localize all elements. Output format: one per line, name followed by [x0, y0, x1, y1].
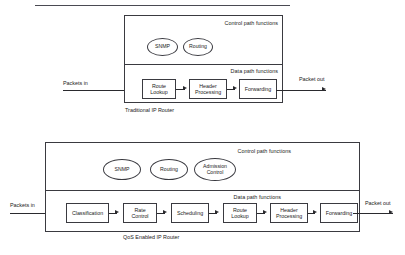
ellipse-label: Routing — [160, 167, 178, 173]
traditional-data-region-label: Data path functions — [231, 68, 278, 74]
qos-connector-5-head — [313, 210, 317, 214]
qos-data-function-classification[interactable]: Classification — [66, 203, 109, 223]
qos-data-function-scheduling[interactable]: Scheduling — [171, 203, 209, 223]
traditional-input-label: Packets in — [63, 80, 88, 86]
proc-label-line1: Scheduling — [177, 210, 203, 216]
qos-data-region-label: Data path functions — [234, 194, 281, 200]
traditional-ip-router-box: Control path functions Data path functio… — [124, 15, 283, 103]
qos-connector-1-head — [115, 210, 119, 214]
top-horizontal-rule — [35, 5, 290, 6]
qos-control-function-routing[interactable]: Routing — [150, 159, 188, 180]
traditional-router-caption: Traditional IP Router — [125, 107, 174, 113]
proc-label-line2: Processing — [195, 89, 221, 95]
traditional-connector-1-head — [183, 86, 187, 90]
traditional-path-divider — [125, 64, 282, 65]
qos-control-function-snmp[interactable]: SNMP — [103, 159, 141, 180]
traditional-control-function-routing[interactable]: Routing — [183, 38, 213, 56]
ellipse-label: SNMP — [115, 167, 130, 173]
qos-control-function-admission-control[interactable]: Admission Control — [194, 158, 236, 181]
qos-data-function-route-lookup[interactable]: Route Lookup — [223, 203, 257, 223]
qos-connector-4-head — [263, 210, 267, 214]
qos-data-function-rate-control[interactable]: Rate Control — [123, 203, 157, 223]
ellipse-label: Routing — [189, 44, 207, 50]
qos-control-region-label: Control path functions — [237, 148, 291, 154]
proc-label-line1: Classification — [72, 210, 103, 216]
figure-canvas: Packets in Control path functions Data p… — [0, 0, 405, 255]
proc-label-line2: Lookup — [150, 89, 167, 95]
traditional-data-function-route-lookup[interactable]: Route Lookup — [142, 79, 176, 99]
qos-input-label: Packets in — [10, 202, 35, 208]
qos-output-label: Packet out — [365, 200, 390, 206]
proc-label-line2: Processing — [276, 213, 302, 219]
qos-data-function-header-processing[interactable]: Header Processing — [270, 203, 308, 223]
ellipse-label-line2: Control — [207, 169, 224, 175]
qos-path-divider — [46, 190, 359, 191]
traditional-output-arrow-head — [322, 87, 326, 91]
traditional-output-label: Packet out — [299, 76, 324, 82]
traditional-output-arrow-line — [276, 90, 326, 91]
traditional-connector-2-head — [233, 86, 237, 90]
proc-label-line2: Control — [131, 213, 148, 219]
qos-output-arrow-head — [389, 210, 393, 214]
qos-output-arrow-line — [353, 213, 393, 214]
qos-connector-3-head — [215, 210, 219, 214]
proc-label-line1: Forwarding — [245, 86, 272, 92]
traditional-control-region-label: Control path functions — [224, 20, 278, 26]
traditional-data-function-header-processing[interactable]: Header Processing — [189, 79, 227, 99]
qos-enabled-ip-router-box: Control path functions Data path functio… — [45, 142, 360, 232]
traditional-data-function-forwarding[interactable]: Forwarding — [239, 79, 277, 99]
qos-connector-2-head — [163, 210, 167, 214]
qos-router-caption: QoS Enabled IP Router — [123, 234, 179, 240]
ellipse-label: SNMP — [155, 44, 170, 50]
proc-label-line1: Forwarding — [326, 210, 353, 216]
traditional-control-function-snmp[interactable]: SNMP — [147, 38, 178, 56]
proc-label-line2: Lookup — [231, 213, 248, 219]
